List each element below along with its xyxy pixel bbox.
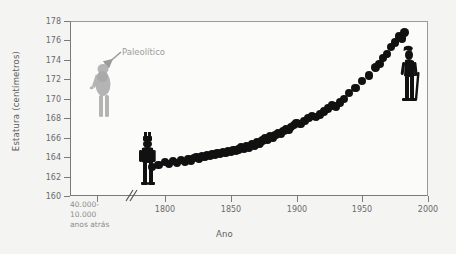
data-point [365, 71, 373, 79]
data-point [351, 84, 359, 92]
modern-person-silhouette [0, 0, 456, 254]
data-point [400, 28, 408, 36]
data-point-paleolithic [97, 71, 108, 82]
chart-figure: Estatura (centímetros) Ano 178 176 174 1… [0, 0, 456, 254]
